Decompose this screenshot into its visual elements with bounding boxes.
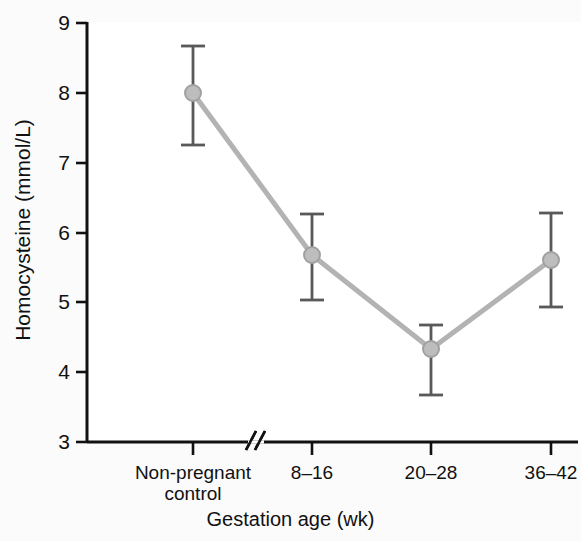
chart-figure: Homocysteine (mmol/L) [0,0,581,541]
y-tick-label-6: 6 [42,222,70,243]
plot-area [0,0,581,541]
y-tick-label-8: 8 [42,82,70,103]
y-tick-label-7: 7 [42,152,70,173]
y-axis-ticks [76,23,87,442]
x-tick-label-20-28: 20–28 [381,462,481,483]
x-tick-label-36-42: 36–42 [501,462,581,483]
x-tick-label-non-pregnant-control: Non-pregnant control [103,462,283,505]
x-tick-label-8-16: 8–16 [262,462,362,483]
y-tick-label-5: 5 [42,291,70,312]
y-tick-label-3: 3 [42,431,70,452]
x-axis-title: Gestation age (wk) [0,508,581,531]
plot-background [87,22,581,442]
y-tick-label-9: 9 [42,12,70,33]
y-tick-label-4: 4 [42,361,70,382]
